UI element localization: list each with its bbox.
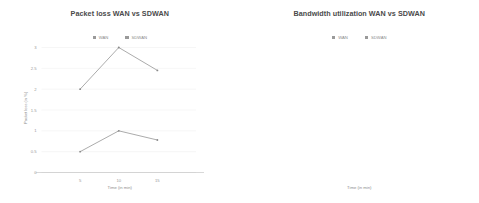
plot-area: 10080604020051015 — [240, 0, 479, 203]
y-tick-label: 0.5 — [31, 149, 37, 154]
y-tick-label: 3 — [34, 45, 37, 50]
chart-panel-packet-loss: Packet loss WAN vs SDWAN WAN SDWAN 32.52… — [0, 0, 240, 203]
x-axis-label: Time (in min) — [0, 185, 240, 190]
x-tick-label: 15 — [155, 178, 160, 183]
chart-panel-bandwidth: Bandwidth utilization WAN vs SDWAN WAN S… — [240, 0, 479, 203]
series-line-sdwan — [80, 131, 157, 152]
x-axis-label: Time (in min) — [240, 185, 479, 190]
data-point-wan — [118, 47, 120, 49]
y-axis-label: Packet loss (in %) — [23, 92, 28, 124]
data-point-sdwan — [156, 139, 158, 141]
plot-svg: 32.521.510.5051015 — [0, 0, 240, 203]
plot-svg: 10080604020051015 — [240, 0, 479, 203]
data-point-sdwan — [118, 130, 120, 132]
y-tick-label: 1.5 — [31, 108, 37, 113]
x-tick-label: 10 — [116, 178, 121, 183]
data-point-wan — [79, 88, 81, 90]
y-tick-label: 1 — [34, 128, 37, 133]
data-point-sdwan — [79, 151, 81, 153]
chart-page: Packet loss WAN vs SDWAN WAN SDWAN 32.52… — [0, 0, 479, 203]
x-tick-label: 5 — [79, 178, 82, 183]
plot-area: 32.521.510.5051015 — [0, 0, 240, 203]
y-tick-label: 2 — [34, 87, 37, 92]
y-tick-label: 2.5 — [31, 66, 37, 71]
data-point-wan — [156, 69, 158, 71]
